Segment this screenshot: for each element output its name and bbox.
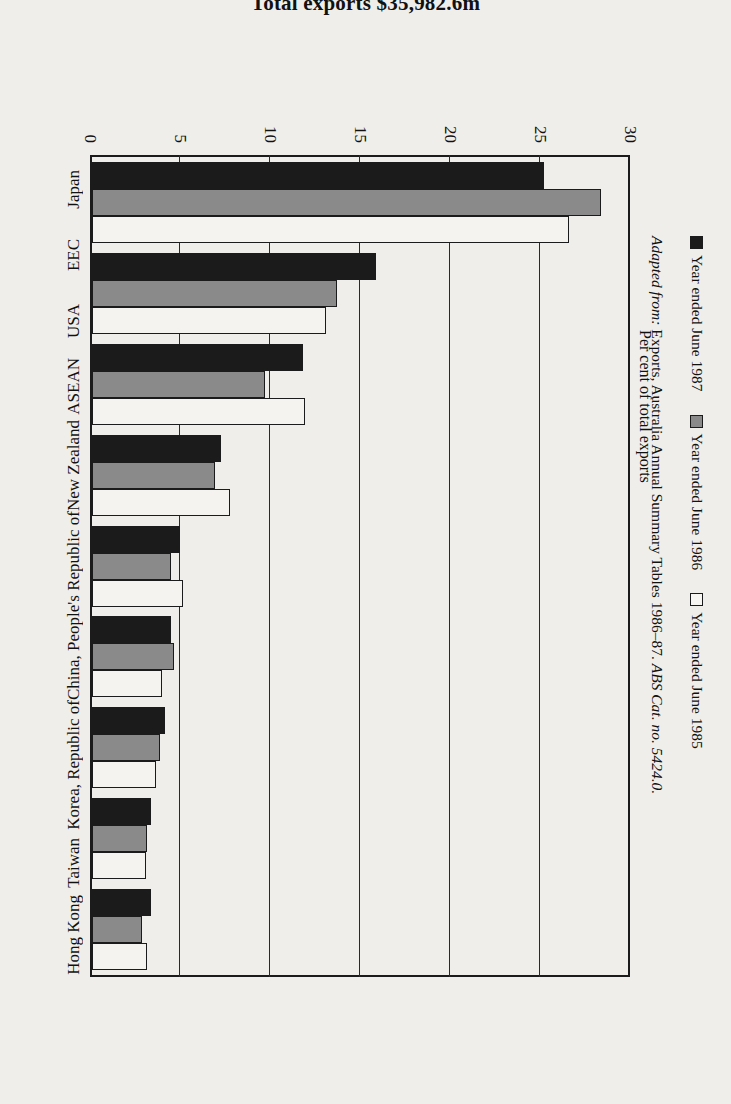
bar-group [92, 702, 628, 793]
category-label: EEC [38, 223, 84, 289]
legend-item: Year ended June 1987 [688, 236, 706, 392]
bar-group [92, 430, 628, 521]
bar [92, 670, 162, 697]
legend-item: Year ended June 1986 [688, 415, 706, 571]
legend-swatch-black [691, 236, 704, 249]
bar [92, 643, 174, 670]
bar [92, 734, 160, 761]
bar-group [92, 611, 628, 702]
source-prefix: Adapted from: [649, 236, 666, 325]
bar [92, 435, 221, 462]
bar [92, 943, 147, 970]
page-title: Total exports $35,982.6m [0, 0, 731, 16]
source-text: Exports, Australia Annual Summary Tables… [649, 329, 666, 660]
category-axis-labels: JapanEECUSAASEANNew ZealandChina, People… [38, 157, 84, 975]
chart-legend: Year ended June 1987Year ended June 1986… [688, 236, 706, 765]
bar [92, 489, 230, 516]
y-tick-label-5: 5 [170, 59, 190, 143]
bar [92, 761, 156, 788]
bar-series-container [92, 157, 628, 975]
y-tick-label-0: 0 [80, 59, 100, 143]
category-label: Taiwan [38, 830, 84, 896]
source-citation: ABS Cat. no. 5424.0. [649, 664, 666, 794]
chart-title-bar: Total exports $35,982.6m [0, 0, 731, 18]
legend-label: Year ended June 1985 [688, 612, 706, 749]
bar [92, 616, 171, 643]
bar [92, 526, 180, 553]
bar [92, 580, 183, 607]
legend-swatch-gray [691, 415, 704, 428]
y-tick-label-10: 10 [260, 59, 280, 143]
category-label: New Zealand [38, 420, 84, 511]
chart-stage: 051015202530 JapanEECUSAASEANNew Zealand… [36, 47, 696, 1057]
bar [92, 216, 569, 243]
bar [92, 553, 171, 580]
category-label: China, People's Republic of [38, 511, 84, 700]
bar [92, 798, 151, 825]
category-label: Japan [38, 157, 84, 223]
y-tick-label-30: 30 [620, 59, 640, 143]
bar [92, 852, 146, 879]
bar [92, 162, 544, 189]
bar-group [92, 157, 628, 248]
bar [92, 889, 151, 916]
bar [92, 344, 303, 371]
bar [92, 280, 337, 307]
bar-group [92, 521, 628, 612]
category-label: Hong Kong [38, 895, 84, 975]
bar [92, 307, 326, 334]
bar [92, 253, 376, 280]
bar-group [92, 793, 628, 884]
y-tick-label-15: 15 [350, 59, 370, 143]
bar-group [92, 248, 628, 339]
legend-swatch-white [691, 593, 704, 606]
legend-label: Year ended June 1986 [688, 434, 706, 571]
bar [92, 189, 601, 216]
legend-label: Year ended June 1987 [688, 255, 706, 392]
bar-group [92, 884, 628, 975]
bar [92, 398, 305, 425]
y-tick-label-25: 25 [530, 59, 550, 143]
bar [92, 371, 265, 398]
legend-item: Year ended June 1985 [688, 593, 706, 749]
bar-group [92, 339, 628, 430]
bar [92, 462, 215, 489]
bar [92, 916, 142, 943]
bar [92, 825, 147, 852]
y-tick-label-20: 20 [440, 59, 460, 143]
category-label: USA [38, 288, 84, 354]
category-label: Korea, Republic of [38, 700, 84, 830]
category-label: ASEAN [38, 354, 84, 420]
source-note: Adapted from: Exports, Australia Annual … [648, 236, 666, 794]
bar [92, 707, 165, 734]
